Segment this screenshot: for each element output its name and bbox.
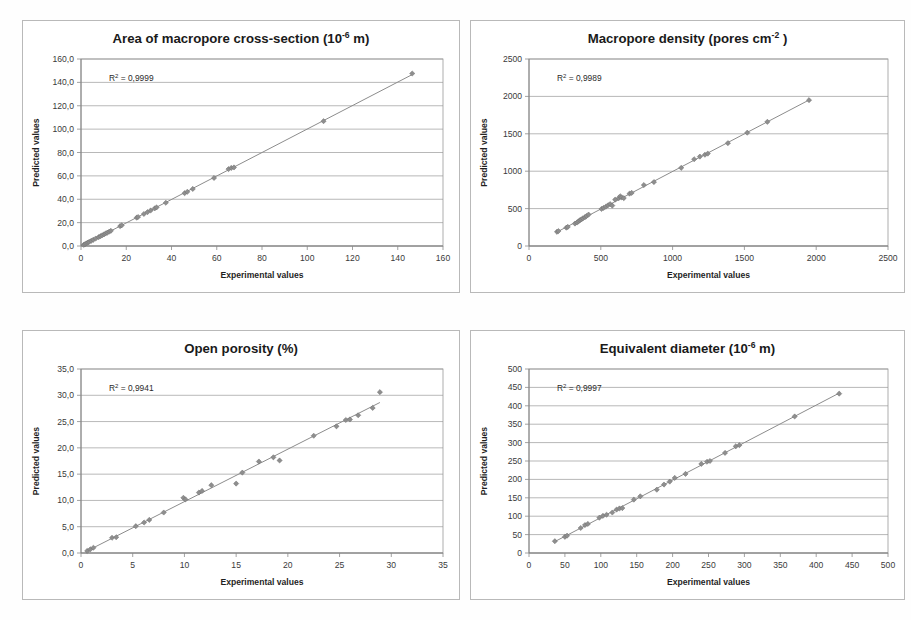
x-tick-label: 400 xyxy=(809,560,824,570)
data-point xyxy=(765,119,770,124)
y-axis: 05001000150020002500 xyxy=(503,54,529,251)
y-tick-label: 0,0 xyxy=(62,548,74,558)
x-axis-title: Experimental values xyxy=(220,270,303,280)
y-tick-label: 2500 xyxy=(503,54,522,64)
r-squared-annotation: R2 = 0,9941 xyxy=(109,383,154,393)
y-tick-label: 100 xyxy=(508,511,523,521)
y-tick-label: 0 xyxy=(517,241,522,251)
y-tick-label: 60,0 xyxy=(57,171,74,181)
x-tick-label: 10 xyxy=(180,560,190,570)
x-tick-label: 1500 xyxy=(735,253,754,263)
y-tick-label: 5,0 xyxy=(62,522,74,532)
x-tick-label: 250 xyxy=(701,560,716,570)
y-tick-label: 120,0 xyxy=(52,101,74,111)
x-tick-label: 30 xyxy=(387,560,397,570)
data-point-series xyxy=(85,390,383,554)
trend-line xyxy=(84,75,413,245)
data-point xyxy=(311,433,316,438)
data-point xyxy=(234,481,239,486)
x-tick-label: 200 xyxy=(665,560,680,570)
chart-svg: Open porosity (%)0,05,010,015,020,025,03… xyxy=(23,331,459,599)
y-tick-label: 250 xyxy=(508,456,523,466)
data-point xyxy=(837,391,842,396)
chart-title: Area of macropore cross-section (10-6 m) xyxy=(113,30,370,46)
x-tick-label: 500 xyxy=(881,560,896,570)
x-axis: 05101520253035 xyxy=(79,553,448,570)
x-tick-label: 5 xyxy=(130,560,135,570)
y-tick-label: 2000 xyxy=(503,91,522,101)
chart-panel-area-of-macropore-cross-section: Area of macropore cross-section (10-6 m)… xyxy=(22,20,460,293)
x-tick-label: 500 xyxy=(594,253,609,263)
x-tick-label: 300 xyxy=(737,560,752,570)
x-axis: 05001000150020002500 xyxy=(527,246,898,263)
y-tick-label: 500 xyxy=(508,364,523,374)
data-point xyxy=(806,98,811,103)
x-tick-label: 160 xyxy=(436,253,451,263)
y-tick-label: 300 xyxy=(508,438,523,448)
x-axis-title: Experimental values xyxy=(667,577,750,587)
chart-panel-equivalent-diameter: Equivalent diameter (10-6 m)050100150200… xyxy=(470,330,905,600)
x-axis: 020406080100120140160 xyxy=(79,246,451,263)
y-tick-label: 1000 xyxy=(503,166,522,176)
data-point xyxy=(334,424,339,429)
x-tick-label: 60 xyxy=(212,253,222,263)
data-point xyxy=(667,479,672,484)
y-tick-label: 35,0 xyxy=(57,364,74,374)
x-tick-label: 100 xyxy=(594,560,609,570)
y-tick-label: 160,0 xyxy=(52,54,74,64)
y-tick-label: 150 xyxy=(508,493,523,503)
x-tick-label: 35 xyxy=(438,560,448,570)
y-axis: 0,05,010,015,020,025,030,035,0 xyxy=(57,364,81,558)
data-point xyxy=(370,405,375,410)
y-axis-title: Predicted values xyxy=(479,427,489,496)
data-point xyxy=(792,414,797,419)
x-tick-label: 0 xyxy=(527,560,532,570)
data-point xyxy=(356,413,361,418)
y-tick-label: 400 xyxy=(508,401,523,411)
r-squared-annotation: R2 = 0,9999 xyxy=(109,73,154,83)
x-tick-label: 100 xyxy=(300,253,315,263)
r-squared-annotation: R2 = 0,9989 xyxy=(557,73,602,83)
y-tick-label: 15,0 xyxy=(57,469,74,479)
data-point-series xyxy=(81,71,415,248)
y-tick-label: 20,0 xyxy=(57,218,74,228)
chart-panel-open-porosity: Open porosity (%)0,05,010,015,020,025,03… xyxy=(22,330,460,600)
y-tick-label: 350 xyxy=(508,419,523,429)
x-tick-label: 2500 xyxy=(878,253,897,263)
x-tick-label: 2000 xyxy=(807,253,826,263)
x-tick-label: 1000 xyxy=(663,253,682,263)
x-axis-title: Experimental values xyxy=(220,577,303,587)
y-tick-label: 10,0 xyxy=(57,495,74,505)
x-tick-label: 350 xyxy=(773,560,788,570)
y-tick-label: 0 xyxy=(517,548,522,558)
chart-svg: Area of macropore cross-section (10-6 m)… xyxy=(23,21,459,292)
x-tick-label: 0 xyxy=(527,253,532,263)
chart-panel-macropore-density: Macropore density (pores cm-2 )050010001… xyxy=(470,20,905,293)
y-tick-label: 100,0 xyxy=(52,124,74,134)
x-tick-label: 0 xyxy=(79,560,84,570)
y-tick-label: 140,0 xyxy=(52,77,74,87)
data-point xyxy=(641,182,646,187)
x-tick-label: 20 xyxy=(283,560,293,570)
x-tick-label: 20 xyxy=(121,253,131,263)
x-tick-label: 25 xyxy=(335,560,345,570)
x-tick-label: 80 xyxy=(257,253,267,263)
y-tick-label: 1500 xyxy=(503,129,522,139)
x-axis-title: Experimental values xyxy=(667,270,750,280)
trend-line xyxy=(557,100,809,232)
y-tick-label: 0,0 xyxy=(62,241,74,251)
y-axis-title: Predicted values xyxy=(31,118,41,187)
x-tick-label: 50 xyxy=(560,560,570,570)
x-axis: 050100150200250300350400450500 xyxy=(527,553,896,570)
y-tick-label: 20,0 xyxy=(57,443,74,453)
x-tick-label: 0 xyxy=(79,253,84,263)
chart-title: Macropore density (pores cm-2 ) xyxy=(588,30,788,46)
y-tick-label: 25,0 xyxy=(57,417,74,427)
data-point xyxy=(133,524,138,529)
data-point xyxy=(377,390,382,395)
chart-svg: Equivalent diameter (10-6 m)050100150200… xyxy=(471,331,904,599)
y-tick-label: 30,0 xyxy=(57,390,74,400)
x-tick-label: 150 xyxy=(630,560,645,570)
x-tick-label: 40 xyxy=(167,253,177,263)
y-tick-label: 80,0 xyxy=(57,148,74,158)
